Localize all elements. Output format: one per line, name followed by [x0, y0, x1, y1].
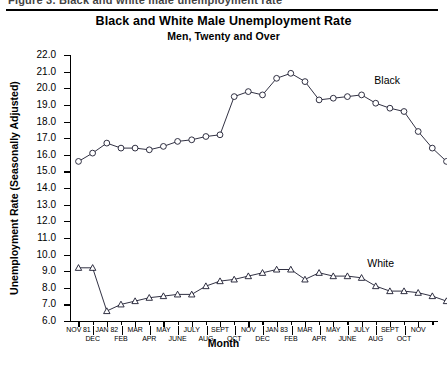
- x-label-separator: [93, 326, 94, 335]
- x-tick-minor: [206, 321, 207, 325]
- y-tick: [64, 155, 70, 156]
- x-tick-minor: [178, 321, 179, 325]
- y-tick: [64, 221, 70, 222]
- x-label-separator: [178, 326, 179, 335]
- data-point-black: [316, 97, 322, 103]
- data-point-black: [387, 105, 393, 111]
- series-svg: [70, 55, 438, 321]
- x-tick-minor: [121, 321, 122, 325]
- data-point-black: [302, 79, 308, 85]
- y-tick-label: 8.0: [16, 283, 56, 293]
- x-tick-label-top: MAY: [156, 326, 170, 333]
- y-tick-label: 6.0: [16, 316, 56, 326]
- x-axis-line: [70, 321, 438, 322]
- chart-title: Black and White Male Unemployment Rate: [0, 14, 447, 28]
- x-tick-minor: [319, 321, 320, 325]
- y-tick: [64, 72, 70, 73]
- y-tick: [64, 321, 70, 322]
- x-label-separator: [235, 326, 236, 335]
- x-axis-title: Month: [0, 337, 447, 349]
- y-tick: [64, 138, 70, 139]
- series-label-black: Black: [374, 74, 400, 86]
- x-tick-label-top: JAN 82: [96, 326, 118, 333]
- x-label-separator: [263, 326, 264, 335]
- x-label-separator: [292, 326, 293, 335]
- data-point-white: [316, 270, 322, 276]
- y-tick-label: 18.0: [16, 117, 56, 127]
- y-tick-label: 9.0: [16, 266, 56, 276]
- x-label-separator: [122, 326, 123, 335]
- clipped-header-text: Figure 3. Black and white male unemploym…: [8, 0, 438, 8]
- data-point-white: [443, 298, 447, 304]
- data-point-black: [429, 145, 435, 151]
- y-tick: [64, 88, 70, 89]
- header-divider: [6, 9, 438, 11]
- y-tick-label: 13.0: [16, 200, 56, 210]
- x-tick-label-top: NOV: [241, 326, 256, 333]
- y-tick: [64, 171, 70, 172]
- y-tick-label: 16.0: [16, 150, 56, 160]
- y-tick: [64, 271, 70, 272]
- y-tick-label: 7.0: [16, 299, 56, 309]
- data-point-black: [132, 145, 138, 151]
- data-point-black: [444, 159, 447, 165]
- data-point-black: [231, 94, 237, 100]
- x-tick-label-top: MAR: [297, 326, 312, 333]
- chart-subtitle: Men, Twenty and Over: [0, 30, 447, 42]
- x-tick-minor: [93, 321, 94, 325]
- x-label-separator: [348, 326, 349, 335]
- data-point-black: [373, 100, 379, 106]
- data-point-black: [330, 95, 336, 101]
- y-tick: [64, 238, 70, 239]
- plot-area: Unemployment Rate (Seasonally Adjusted) …: [70, 55, 438, 321]
- x-tick-label-top: NOV: [411, 326, 426, 333]
- data-point-black: [359, 92, 365, 98]
- x-tick-minor: [291, 321, 292, 325]
- y-tick-label: 22.0: [16, 50, 56, 60]
- data-point-white: [302, 276, 308, 282]
- x-tick-label-top: NOV 81: [66, 326, 90, 333]
- y-tick-label: 14.0: [16, 183, 56, 193]
- x-tick-label-top: MAR: [127, 326, 142, 333]
- y-tick-label: 21.0: [16, 67, 56, 77]
- data-point-white: [373, 283, 379, 289]
- x-tick-minor: [234, 321, 235, 325]
- y-tick: [64, 304, 70, 305]
- y-tick: [64, 288, 70, 289]
- data-point-black: [76, 159, 82, 165]
- data-point-black: [217, 132, 223, 138]
- data-point-black: [245, 89, 251, 95]
- y-tick: [64, 205, 70, 206]
- data-point-black: [415, 129, 421, 135]
- x-tick-minor: [432, 321, 433, 325]
- chart-page: Figure 3. Black and white male unemploym…: [0, 0, 447, 369]
- x-tick-minor: [404, 321, 405, 325]
- x-tick-minor: [262, 321, 263, 325]
- x-label-separator: [376, 326, 377, 335]
- data-point-black: [274, 75, 280, 81]
- x-label-separator: [207, 326, 208, 335]
- y-tick-label: 19.0: [16, 100, 56, 110]
- x-label-separator: [320, 326, 321, 335]
- x-label-separator: [150, 326, 151, 335]
- y-tick: [64, 105, 70, 106]
- data-point-black: [260, 92, 266, 98]
- x-label-separator: [405, 326, 406, 335]
- data-point-black: [104, 140, 110, 146]
- x-tick-label-top: MAY: [326, 326, 340, 333]
- x-tick-label-top: SEPT: [211, 326, 229, 333]
- x-tick-minor: [347, 321, 348, 325]
- data-point-black: [189, 137, 195, 143]
- y-tick-label: 15.0: [16, 166, 56, 176]
- data-point-black: [345, 94, 351, 100]
- series-label-white: White: [367, 257, 394, 269]
- y-tick: [64, 255, 70, 256]
- data-point-black: [161, 144, 167, 150]
- y-tick-label: 10.0: [16, 250, 56, 260]
- y-tick: [64, 122, 70, 123]
- x-tick-label-top: JULY: [184, 326, 200, 333]
- data-point-black: [146, 147, 152, 153]
- data-point-black: [288, 70, 294, 76]
- y-tick-label: 17.0: [16, 133, 56, 143]
- y-tick: [64, 188, 70, 189]
